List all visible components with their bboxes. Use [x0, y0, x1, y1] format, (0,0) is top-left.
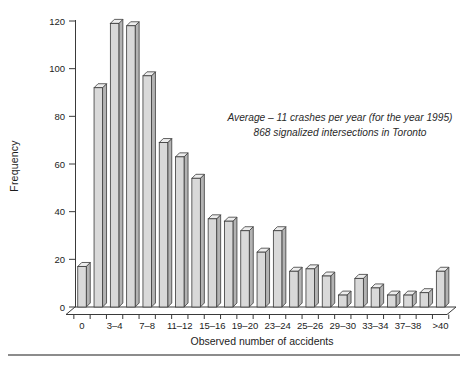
bar-front-face [143, 76, 152, 307]
bar-front-face [176, 157, 185, 307]
bar-side-face [298, 267, 302, 307]
bar-front-face [273, 231, 282, 307]
bar-front-face [241, 231, 250, 307]
bar-side-face [314, 265, 318, 307]
bar-side-face [217, 215, 221, 307]
bar-front-face [257, 252, 266, 307]
bar-front-face [94, 88, 103, 307]
bar-side-face [86, 262, 90, 307]
ground-platform [66, 307, 456, 315]
x-tick-label: >40 [433, 320, 449, 331]
bar-front-face [355, 278, 364, 307]
y-tick-label: 40 [54, 206, 65, 217]
x-tick-label: 11–12 [167, 320, 193, 331]
x-tick-label: 0 [79, 320, 84, 331]
bar-front-face [371, 288, 380, 307]
accident-frequency-histogram: Frequency 02040608010012003–47–811–1215–… [0, 0, 464, 366]
bar-front-face [110, 23, 119, 307]
y-tick-label: 80 [54, 111, 65, 122]
bar-side-face [119, 19, 123, 307]
x-tick-label: 3–4 [107, 320, 123, 331]
bar-chart-canvas: 02040608010012003–47–811–1215–1619–2023–… [0, 0, 464, 366]
x-axis-title: Observed number of accidents [191, 335, 334, 347]
bar-front-face [208, 219, 217, 307]
y-tick-label: 120 [49, 16, 65, 27]
bar-front-face [159, 143, 168, 307]
bar-front-face [78, 266, 87, 307]
bar-side-face [282, 227, 286, 307]
bar-side-face [233, 217, 237, 307]
bar-front-face [436, 271, 445, 307]
bar-front-face [404, 295, 413, 307]
bar-side-face [168, 139, 172, 307]
bar-front-face [224, 221, 233, 307]
bar-front-face [322, 276, 331, 307]
x-tick-label: 19–20 [232, 320, 258, 331]
annotation-line-1: Average – 11 crashes per year (for the y… [227, 112, 452, 123]
bar-front-face [387, 295, 396, 307]
y-tick-label: 100 [49, 63, 65, 74]
bar-side-face [266, 248, 270, 307]
annotation-line-2: 868 signalized intersections in Toronto [254, 127, 427, 138]
bar-side-face [445, 267, 449, 307]
bottom-divider-line [8, 354, 460, 356]
x-tick-label: 23–24 [264, 320, 290, 331]
bar-front-face [192, 178, 201, 307]
y-tick-label: 60 [54, 159, 65, 170]
bar-front-face [339, 295, 348, 307]
y-tick-label: 0 [60, 302, 65, 313]
x-tick-label: 29–30 [330, 320, 356, 331]
bar-side-face [331, 272, 335, 307]
bar-front-face [290, 271, 299, 307]
bar-side-face [151, 72, 155, 307]
bar-side-face [363, 274, 367, 307]
bar-front-face [127, 26, 135, 307]
bar-side-face [249, 227, 253, 307]
bar-side-face [200, 174, 204, 307]
bar-front-face [420, 293, 429, 307]
bar-side-face [135, 22, 139, 307]
x-tick-label: 15–16 [199, 320, 225, 331]
y-tick-label: 20 [54, 254, 65, 265]
x-tick-label: 7–8 [139, 320, 155, 331]
x-tick-label: 33–34 [362, 320, 388, 331]
bar-side-face [184, 153, 188, 307]
bar-side-face [103, 84, 107, 307]
x-tick-label: 25–26 [297, 320, 323, 331]
bar-front-face [306, 269, 315, 307]
x-tick-label: 37–38 [395, 320, 421, 331]
